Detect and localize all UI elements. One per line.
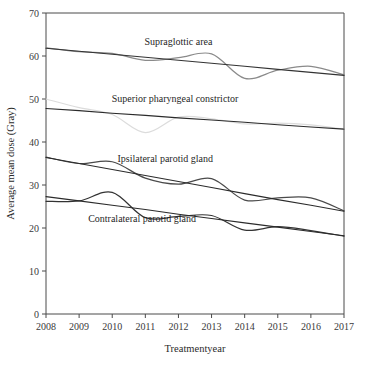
x-tick-label: 2017 xyxy=(334,321,354,332)
y-tick-label: 10 xyxy=(29,266,39,277)
trend-line xyxy=(46,157,344,211)
x-tick-label: 2014 xyxy=(235,321,255,332)
series-annotation-label: Ipsilateral parotid gland xyxy=(117,153,213,164)
x-tick-label: 2013 xyxy=(202,321,222,332)
series-annotations: Supraglottic areaSuperior pharyngeal con… xyxy=(88,36,239,224)
y-tick-label: 70 xyxy=(29,8,39,19)
x-tick-label: 2016 xyxy=(301,321,321,332)
trend-line xyxy=(46,108,344,129)
x-tick-label: 2012 xyxy=(168,321,188,332)
y-tick-label: 0 xyxy=(34,309,39,320)
y-tick-label: 60 xyxy=(29,51,39,62)
x-axis-ticks: 2008200920102011201220132014201520162017 xyxy=(36,314,354,332)
series-annotation-label: Supraglottic area xyxy=(144,36,213,47)
x-tick-label: 2010 xyxy=(102,321,122,332)
y-tick-label: 20 xyxy=(29,223,39,234)
x-axis-title: Treatmentyear xyxy=(165,343,226,354)
data-series-curve xyxy=(46,99,344,133)
y-tick-label: 30 xyxy=(29,180,39,191)
series-layer xyxy=(46,48,344,236)
y-tick-label: 50 xyxy=(29,94,39,105)
series-annotation-label: Contralateral parotid gland xyxy=(88,213,196,224)
y-tick-label: 40 xyxy=(29,137,39,148)
series-annotation-label: Superior pharyngeal constrictor xyxy=(112,93,239,104)
chart-container: 010203040506070 200820092010201120122013… xyxy=(0,0,368,366)
x-tick-label: 2011 xyxy=(136,321,156,332)
y-axis-ticks: 010203040506070 xyxy=(29,8,46,320)
trend-line xyxy=(46,48,344,75)
x-tick-label: 2008 xyxy=(36,321,56,332)
x-tick-label: 2009 xyxy=(69,321,89,332)
y-axis-title: Average mean dose (Gray) xyxy=(5,107,17,220)
x-tick-label: 2015 xyxy=(268,321,288,332)
line-chart: 010203040506070 200820092010201120122013… xyxy=(0,0,368,366)
